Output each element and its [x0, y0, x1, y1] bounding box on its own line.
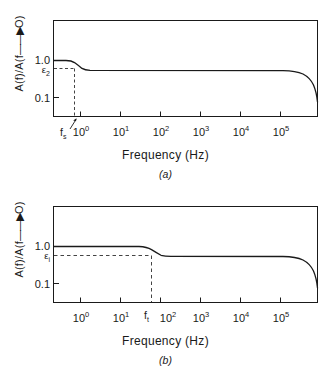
figure-frequency-response: A(f)/A(f——▶O) 1.0 ε2 0.1 f — [0, 0, 331, 371]
x-tick-label-1-b: 101 — [108, 310, 134, 324]
x-tick-label-0-a: 100 — [68, 124, 94, 138]
x-tick-label-2-b: 102 — [155, 310, 181, 324]
x-tick-label-2-a: 102 — [148, 124, 174, 138]
plot-frame-a — [54, 21, 318, 117]
x-tick-label-5-a: 105 — [268, 124, 294, 138]
x-axis-title-b: Frequency (Hz) — [0, 334, 331, 348]
x-tick-label-4-a: 104 — [228, 124, 254, 138]
response-curve-a — [54, 61, 318, 103]
response-curve-b — [54, 247, 318, 289]
x-tick-label-5-b: 105 — [268, 310, 294, 324]
plot-frame-b — [54, 207, 318, 303]
panel-caption-b: (b) — [0, 354, 331, 366]
x-tick-label-3-b: 103 — [188, 310, 214, 324]
corner-frequency-marker-a: fs — [60, 126, 66, 140]
x-tick-label-0-b: 100 — [68, 310, 94, 324]
x-tick-label-1-a: 101 — [108, 124, 134, 138]
corner-frequency-marker-b: ft — [144, 309, 149, 323]
panel-caption-a: (a) — [0, 168, 331, 180]
fs-arrow-head-a — [73, 118, 76, 121]
x-tick-label-3-a: 103 — [188, 124, 214, 138]
panel-b: A(f)/A(f——▶O) 1.0 εi 0.1 ft 100 101 102 … — [0, 186, 331, 371]
x-axis-title-a: Frequency (Hz) — [0, 148, 331, 162]
x-tick-label-4-b: 104 — [228, 310, 254, 324]
panel-a: A(f)/A(f——▶O) 1.0 ε2 0.1 f — [0, 0, 331, 185]
